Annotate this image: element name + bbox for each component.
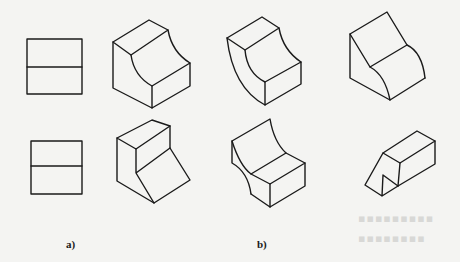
front-view-top [27,39,82,94]
isometric-solid-6 [365,131,435,196]
isometric-solid-5 [232,119,305,207]
background-bleed-text: ▪▪▪▪▪▪▪▪ [358,232,426,245]
isometric-solid-3 [350,12,425,100]
background-bleed-text: ▪▪▪▪▪▪▪▪▪ [358,212,434,225]
isometric-solid-4 [117,120,190,203]
front-view-bottom [31,141,82,194]
figure-label-b: b) [257,238,267,250]
figure-label-a: a) [66,238,75,250]
isometric-solid-1 [113,20,190,108]
isometric-solid-2 [227,17,301,105]
